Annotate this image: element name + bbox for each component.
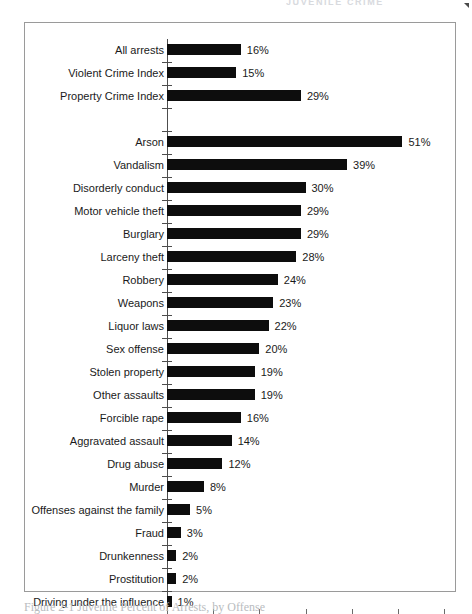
bar-category-label: Violent Crime Index [68,66,164,80]
bar-row: Offenses against the family5% [25,499,457,522]
bar-category-label: Arson [135,135,164,149]
bar [167,297,273,308]
bar [167,366,255,377]
y-axis-tick [162,223,172,224]
bar-category-label: Stolen property [89,365,164,379]
bar-value-label: 29% [307,227,329,241]
bar-value-label: 2% [182,549,198,563]
bar-row: Fraud3% [25,522,457,545]
y-axis-tick [162,315,172,316]
bar-category-label: Prostitution [109,572,164,586]
bar [167,458,222,469]
y-axis-tick [162,545,172,546]
bar-value-label: 15% [242,66,264,80]
bar-row: Vandalism39% [25,154,457,177]
bar-category-label: Weapons [118,296,164,310]
bar-category-label: Liquor laws [108,319,164,333]
bar-value-label: 30% [312,181,334,195]
bar [167,435,232,446]
bar-category-label: Drunkenness [99,549,164,563]
bar-value-label: 8% [210,480,226,494]
bar-row: Property Crime Index29% [25,85,457,108]
y-axis-tick [162,430,172,431]
bar-value-label: 22% [275,319,297,333]
bar [167,320,269,331]
bar-row: Larceny theft28% [25,246,457,269]
bar-category-label: Robbery [122,273,164,287]
bar-category-label: Forcible rape [100,411,164,425]
y-axis-tick [162,177,172,178]
bar [167,44,241,55]
bar-chart-plot-area: All arrests16%Violent Crime Index15%Prop… [25,23,457,593]
y-axis-tick [162,154,172,155]
bar-category-label: Vandalism [113,158,164,172]
bar-value-label: 19% [261,388,283,402]
y-axis-tick [162,269,172,270]
bar-value-label: 14% [238,434,260,448]
page-corner-mark [464,3,469,8]
bar [167,274,278,285]
bar-value-label: 3% [187,526,203,540]
page-running-head: JUVENILE CRIME [286,0,446,8]
bar-row: Arson51% [25,131,457,154]
bar-value-label: 24% [284,273,306,287]
y-axis-tick [162,407,172,408]
bar [167,251,296,262]
bar [167,159,347,170]
bar-category-label: Disorderly conduct [73,181,164,195]
bar-value-label: 51% [408,135,430,149]
bar-row: Other assaults19% [25,384,457,407]
y-axis-tick [162,62,172,63]
y-axis-tick [162,499,172,500]
bar-value-label: 29% [307,89,329,103]
bar-row-spacer [25,108,457,131]
y-axis-tick [162,522,172,523]
bar-row: Violent Crime Index15% [25,62,457,85]
y-axis-tick [162,361,172,362]
bar [167,504,190,515]
bar-value-label: 12% [228,457,250,471]
bar-category-label: Larceny theft [100,250,164,264]
bar-value-label: 29% [307,204,329,218]
bar-category-label: Other assaults [93,388,164,402]
bar-category-label: All arrests [115,43,164,57]
bar-row: Murder8% [25,476,457,499]
bar-category-label: Property Crime Index [60,89,164,103]
bar-value-label: 23% [279,296,301,310]
bar-row: Drug abuse12% [25,453,457,476]
bar-value-label: 19% [261,365,283,379]
bar-row: Burglary29% [25,223,457,246]
bar-category-label: Aggravated assault [70,434,164,448]
bar-category-label: Fraud [135,526,164,540]
y-axis-tick [162,85,172,86]
bar-value-label: 2% [182,572,198,586]
y-axis-tick [162,591,172,592]
bar-row: Drunkenness2% [25,545,457,568]
bar-row: Forcible rape16% [25,407,457,430]
y-axis-tick [162,292,172,293]
figure-frame: All arrests16%Violent Crime Index15%Prop… [24,22,456,592]
bar-value-label: 39% [353,158,375,172]
bar-value-label: 16% [247,43,269,57]
bar-category-label: Burglary [123,227,164,241]
bar-row: Disorderly conduct30% [25,177,457,200]
bar-value-label: 20% [265,342,287,356]
y-axis-tick [162,476,172,477]
bar-row: Liquor laws22% [25,315,457,338]
bar [167,67,236,78]
y-axis-tick [162,384,172,385]
bar-category-label: Sex offense [106,342,164,356]
bar-category-label: Murder [129,480,164,494]
figure-caption: Figure 2-1 Juvenile Percent of Arrests, … [24,600,464,614]
bar [167,550,176,561]
bar-value-label: 16% [247,411,269,425]
y-axis-tick [162,338,172,339]
bar [167,228,301,239]
bar-row: Motor vehicle theft29% [25,200,457,223]
bar-row: Sex offense20% [25,338,457,361]
bar-value-label: 5% [196,503,212,517]
y-axis-tick [162,200,172,201]
y-axis-tick [162,108,172,109]
bar-category-label: Offenses against the family [32,503,164,517]
bar [167,412,241,423]
